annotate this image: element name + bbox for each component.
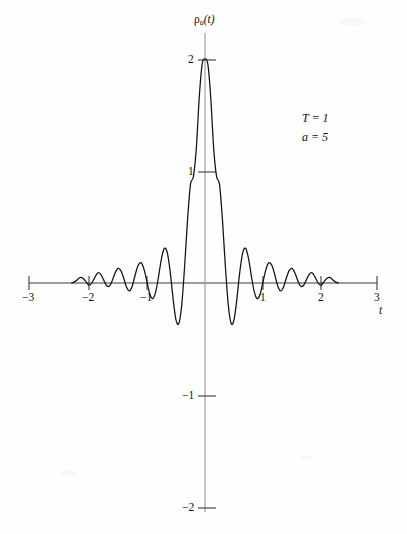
- y-tick-label-1: 1: [188, 166, 194, 178]
- y-axis-label-arg: (t): [204, 13, 215, 25]
- annotation-param-T: T = 1: [302, 112, 329, 124]
- y-tick-label-neg1: −1: [182, 390, 194, 402]
- y-axis-ticks: [198, 60, 216, 508]
- x-tick-label-1: 1: [260, 292, 266, 304]
- annotation-param-a: a = 5: [302, 131, 328, 143]
- plot-svg: [0, 0, 407, 534]
- x-tick-label-3: 3: [374, 292, 380, 304]
- x-tick-label-neg1: −1: [140, 292, 152, 304]
- y-axis-label: ρu(t): [194, 14, 215, 27]
- x-tick-label-neg2: −2: [82, 292, 94, 304]
- x-tick-label-neg3: −3: [22, 292, 34, 304]
- y-tick-label-neg2: −2: [182, 502, 194, 514]
- figure-canvas: −3 −2 −1 1 2 3 2 1 −1 −2 t ρu(t) T = 1 a…: [0, 0, 407, 534]
- x-axis-label: t: [379, 305, 382, 317]
- x-tick-label-2: 2: [318, 292, 324, 304]
- y-tick-label-2: 2: [188, 54, 194, 66]
